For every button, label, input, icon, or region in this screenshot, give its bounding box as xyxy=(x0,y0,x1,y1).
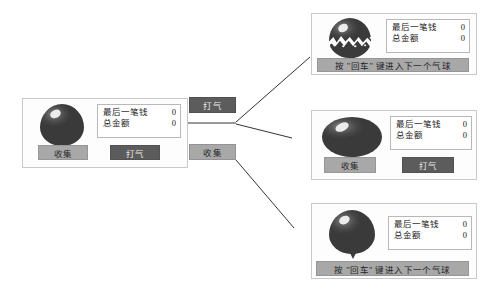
collect-button[interactable]: 收集 xyxy=(324,157,376,173)
readout-last-label: 最后一笔钱 xyxy=(394,219,439,230)
node-pump-action[interactable]: 打气 xyxy=(189,97,236,113)
readout-inflated: 最后一笔钱 0 总金额 0 xyxy=(390,116,472,150)
readout-row-total: 总金额 0 xyxy=(103,118,176,129)
panel-start-state: 最后一笔钱 0 总金额 0 收集 打气 xyxy=(22,98,188,168)
readout-row-last: 最后一笔钱 0 xyxy=(103,107,176,118)
panel-collected-state: 最后一笔钱 0 总金额 0 按 "回车" 键进入下一个气球 xyxy=(311,203,477,279)
readout-start: 最后一笔钱 0 总金额 0 xyxy=(97,104,181,138)
readout-last-label: 最后一笔钱 xyxy=(392,22,437,33)
readout-last-value: 0 xyxy=(172,107,176,118)
next-balloon-banner[interactable]: 按 "回车" 键进入下一个气球 xyxy=(317,58,469,72)
readout-last-value: 0 xyxy=(461,22,465,33)
readout-last-label: 最后一笔钱 xyxy=(396,119,441,130)
balloon-start xyxy=(40,104,86,150)
connector-collect-to-collected xyxy=(236,160,294,228)
readout-total-label: 总金额 xyxy=(103,118,130,129)
readout-row-total: 总金额 0 xyxy=(396,130,467,141)
readout-last-value: 0 xyxy=(463,119,467,130)
readout-popped: 最后一笔钱 0 总金额 0 xyxy=(386,19,470,53)
readout-last-label: 最后一笔钱 xyxy=(103,107,148,118)
readout-row-last: 最后一笔钱 0 xyxy=(396,119,467,130)
balloon-collected xyxy=(329,210,377,260)
readout-total-label: 总金额 xyxy=(396,130,423,141)
readout-total-value: 0 xyxy=(463,130,467,141)
readout-collected: 最后一笔钱 0 总金额 0 xyxy=(388,216,472,250)
connector-pump-to-popped xyxy=(236,57,310,122)
next-balloon-banner[interactable]: 按 "回车" 键进入下一个气球 xyxy=(316,261,469,276)
readout-total-value: 0 xyxy=(461,33,465,44)
pump-button[interactable]: 打气 xyxy=(110,145,160,160)
readout-last-value: 0 xyxy=(463,219,467,230)
readout-total-value: 0 xyxy=(172,118,176,129)
panel-inflated-state: 最后一笔钱 0 总金额 0 收集 打气 xyxy=(311,110,477,180)
readout-row-total: 总金额 0 xyxy=(392,33,465,44)
readout-total-value: 0 xyxy=(463,230,467,241)
connector-pump-to-inflated xyxy=(236,124,292,138)
collect-button[interactable]: 收集 xyxy=(38,145,88,160)
readout-total-label: 总金额 xyxy=(394,230,421,241)
readout-row-last: 最后一笔钱 0 xyxy=(392,22,465,33)
node-collect-action[interactable]: 收集 xyxy=(189,144,236,160)
readout-total-label: 总金额 xyxy=(392,33,419,44)
pump-button[interactable]: 打气 xyxy=(402,157,454,173)
readout-row-total: 总金额 0 xyxy=(394,230,467,241)
panel-popped-state: 最后一笔钱 0 总金额 0 按 "回车" 键进入下一个气球 xyxy=(311,13,477,75)
balloon-popped xyxy=(329,18,375,62)
readout-row-last: 最后一笔钱 0 xyxy=(394,219,467,230)
